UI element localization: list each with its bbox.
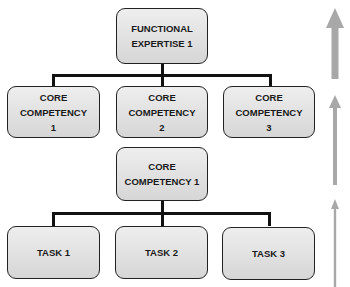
node-task-2: TASK 2 <box>115 226 208 279</box>
node-label: TASK 3 <box>252 246 285 261</box>
node-label-line1: CORE COMPETENCY <box>10 90 97 120</box>
connector-vertical <box>161 212 164 226</box>
node-label-line1: FUNCTIONAL <box>131 21 193 36</box>
node-core-competency-1: CORE COMPETENCY 1 <box>7 86 100 138</box>
node-label: TASK 1 <box>37 245 70 260</box>
node-label-line2: COMPETENCY 1 <box>125 174 200 189</box>
node-label-line2: 1 <box>10 120 97 135</box>
connector-vertical <box>52 212 55 226</box>
connector-vertical <box>161 74 164 86</box>
node-label: TASK 2 <box>145 245 178 260</box>
node-label-line2: 2 <box>119 120 205 135</box>
connector-vertical <box>268 212 271 226</box>
node-core-competency-1-detail: CORE COMPETENCY 1 <box>116 147 208 201</box>
connector-vertical <box>269 74 272 86</box>
node-core-competency-2: CORE COMPETENCY 2 <box>116 86 208 138</box>
node-label-line1: CORE <box>125 159 200 174</box>
arrow-up-thick-icon <box>325 6 345 80</box>
node-core-competency-3: CORE COMPETENCY 3 <box>223 86 315 138</box>
arrow-up-medium-icon <box>326 94 344 186</box>
node-task-3: TASK 3 <box>222 227 315 280</box>
node-label-line2: EXPERTISE 1 <box>131 36 193 51</box>
node-label-line2: 3 <box>226 120 312 135</box>
node-functional-expertise-1: FUNCTIONAL EXPERTISE 1 <box>116 8 208 64</box>
connector-vertical <box>52 74 55 86</box>
arrow-up-thin-icon <box>327 198 343 287</box>
node-label-line1: CORE COMPETENCY <box>226 90 312 120</box>
node-task-1: TASK 1 <box>7 226 100 279</box>
node-label-line1: CORE COMPETENCY <box>119 90 205 120</box>
